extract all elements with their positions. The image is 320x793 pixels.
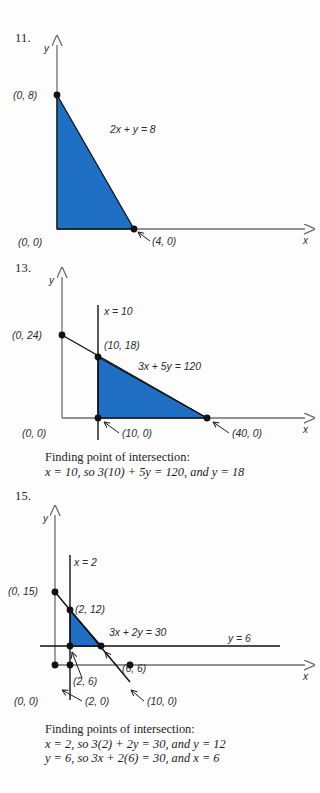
caption-line: Finding points of intersection: bbox=[45, 722, 320, 737]
y-axis-label: y bbox=[43, 43, 50, 54]
leader-arrow bbox=[138, 232, 150, 241]
caption-line: y = 6, so 3x + 2(6) = 30, and x = 6 bbox=[45, 751, 320, 766]
point-label-4-0: (4, 0) bbox=[152, 236, 176, 247]
figure-11-graph: y x (0, 8) (0, 0) (4, 0) 2x + y = 8 bbox=[0, 0, 320, 250]
figure-13-caption: Finding point of intersection: x = 10, s… bbox=[0, 450, 320, 479]
caption-line: Finding point of intersection: bbox=[45, 450, 320, 465]
equation-label-3x-5y-120: 3x + 5y = 120 bbox=[138, 361, 201, 372]
point-label-10-18: (10, 18) bbox=[104, 340, 140, 351]
x-axis-label: x bbox=[302, 235, 309, 246]
point-dot bbox=[67, 662, 74, 669]
vertical-line-label-x-2: x = 2 bbox=[73, 557, 97, 568]
figure-11: 11. y x (0, 8) (0, 0) (4 bbox=[0, 0, 320, 245]
figure-15-caption: Finding points of intersection: x = 2, s… bbox=[0, 722, 320, 766]
point-dot bbox=[52, 589, 59, 596]
leader-arrow bbox=[62, 690, 82, 701]
point-label-0-15: (0, 15) bbox=[8, 586, 38, 597]
point-dot bbox=[59, 332, 66, 339]
point-dot bbox=[131, 226, 138, 233]
point-label-6-6: (6, 6) bbox=[122, 663, 146, 674]
point-label-2-6: (2, 6) bbox=[73, 676, 97, 687]
x-axis-label: x bbox=[302, 424, 309, 435]
caption-line: x = 10, so 3(10) + 5y = 120, and y = 18 bbox=[45, 465, 320, 480]
equation-label-2x-y-8: 2x + y = 8 bbox=[109, 124, 156, 135]
point-dot bbox=[67, 643, 74, 650]
point-label-40-0: (40, 0) bbox=[232, 428, 262, 439]
point-dot bbox=[204, 415, 211, 422]
point-dot bbox=[52, 662, 59, 669]
leader-arrow bbox=[213, 422, 229, 433]
point-label-0-24: (0, 24) bbox=[12, 330, 42, 341]
leader-arrow bbox=[104, 422, 119, 433]
point-label-0-0: (0, 0) bbox=[22, 428, 46, 439]
figure-15-graph: y x x = 2 (0, 15) (2, 12) 3x + 2y = 30 y… bbox=[0, 500, 320, 730]
point-label-0-0: (0, 0) bbox=[14, 696, 38, 707]
vertical-line-label-x-10: x = 10 bbox=[103, 306, 133, 317]
y-axis-label: y bbox=[42, 513, 49, 524]
shaded-region bbox=[57, 95, 134, 229]
worksheet-page: 11. y x (0, 8) (0, 0) (4 bbox=[0, 0, 320, 793]
caption-line: x = 2, so 3(2) + 2y = 30, and y = 12 bbox=[45, 737, 320, 752]
leader-arrow bbox=[131, 690, 144, 701]
point-dot bbox=[67, 607, 74, 614]
point-dot bbox=[95, 354, 102, 361]
point-dot bbox=[98, 643, 105, 650]
equation-label-3x-2y-30: 3x + 2y = 30 bbox=[109, 627, 166, 638]
point-dot bbox=[95, 415, 102, 422]
point-label-10-0: (10, 0) bbox=[147, 696, 177, 707]
horizontal-line-label-y-6: y = 6 bbox=[227, 633, 251, 644]
point-label-10-0: (10, 0) bbox=[122, 428, 152, 439]
point-label-2-0: (2, 0) bbox=[85, 696, 109, 707]
y-axis-label: y bbox=[48, 275, 55, 286]
x-axis-label: x bbox=[302, 671, 309, 682]
point-dot bbox=[54, 92, 61, 99]
point-label-0-0: (0, 0) bbox=[18, 237, 42, 248]
point-label-0-8: (0, 8) bbox=[13, 90, 37, 101]
point-label-2-12: (2, 12) bbox=[75, 604, 105, 615]
